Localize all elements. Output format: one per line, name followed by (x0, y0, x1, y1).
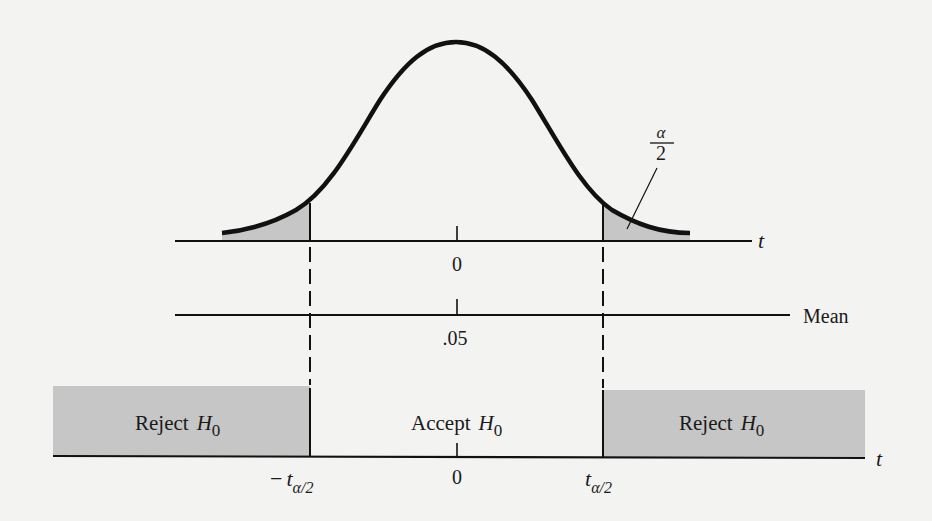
left-critical-value-label: −tα/2 (270, 466, 313, 496)
hypothesis-test-diagram: t 0 α 2 Mean .05 t RejectH0 AcceptH0 (0, 0, 932, 521)
accept-label: AcceptH0 (411, 411, 502, 440)
annotation-pointer (627, 168, 657, 229)
t-axis-top-label: t (758, 228, 765, 253)
t-axis-bottom-label: t (876, 446, 883, 471)
right-reject-region (603, 390, 865, 457)
mean-axis-label: Mean (803, 305, 849, 327)
alpha-numerator: α (657, 123, 667, 142)
center-tick-bottom-label: 0 (452, 466, 462, 488)
alpha-denominator: 2 (656, 142, 666, 164)
t-distribution-curve (222, 42, 690, 233)
center-tick-top-label: 0 (452, 253, 462, 275)
mean-panel: Mean .05 (175, 299, 849, 349)
right-critical-value-label: tα/2 (585, 466, 612, 496)
decision-panel: t RejectH0 AcceptH0 RejectH0 −tα/2 0 tα/… (53, 386, 883, 496)
center-tick-mean-label: .05 (443, 327, 468, 349)
t-distribution-panel: t 0 α 2 (175, 42, 765, 275)
